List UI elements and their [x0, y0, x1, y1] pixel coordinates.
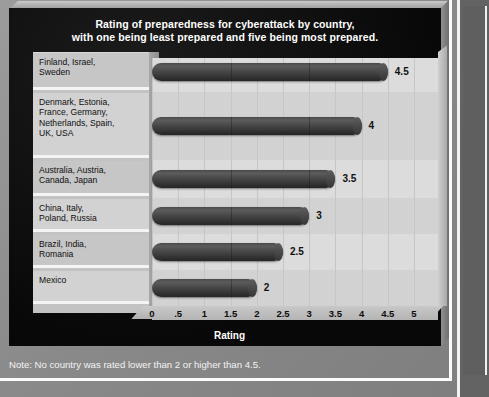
category-label-column: Finland, Israel,SwedenDenmark, Estonia,F…: [33, 52, 149, 313]
gridline: [335, 58, 336, 306]
x-tick-label: 4.5: [381, 308, 394, 319]
category-label-cell: Brazil, India,Romania: [33, 235, 149, 268]
x-tick-label: 2.5: [276, 308, 289, 319]
category-label-cell: China, Italy,Poland, Russia: [33, 199, 149, 232]
category-label-cell: Mexico: [33, 271, 149, 304]
x-tick-label: 2: [254, 308, 259, 319]
gridline: [388, 58, 389, 306]
bar: [152, 63, 388, 81]
bar-end-cap: [326, 170, 335, 188]
bar-value-label: 3: [316, 207, 322, 225]
category-label-cell: Australia, Austria,Canada, Japan: [33, 161, 149, 196]
x-tick-label: 3: [307, 308, 312, 319]
category-label-line: Denmark, Estonia,: [39, 97, 144, 107]
category-label-line: France, Germany,: [39, 107, 144, 117]
bar-segment-line: [231, 63, 232, 81]
category-label-line: Mexico: [39, 275, 144, 285]
bar-end-cap: [379, 63, 388, 81]
right-side-panel: [457, 0, 489, 397]
bar: [152, 170, 335, 188]
bar-value-label: 2: [264, 279, 270, 297]
bar-value-label: 2.5: [290, 243, 304, 261]
x-axis-title: Rating: [9, 330, 450, 341]
bar-value-label: 4: [369, 117, 375, 135]
bar-segment-line: [231, 279, 232, 297]
bar-end-cap: [248, 279, 257, 297]
chart-title: Rating of preparedness for cyberattack b…: [25, 18, 425, 44]
bar: [152, 207, 309, 225]
x-axis: 0.511.522.533.544.55: [33, 308, 433, 324]
bar-segment-line: [309, 63, 310, 81]
x-tick-label: .5: [174, 308, 182, 319]
category-label-line: Australia, Austria,: [39, 165, 144, 175]
category-label-line: Finland, Israel,: [39, 57, 144, 67]
chart-scene: Rating of preparedness for cyberattack b…: [0, 0, 489, 397]
chart-title-line-1: Rating of preparedness for cyberattack b…: [95, 18, 354, 30]
bar-segment-line: [309, 117, 310, 135]
x-tick-label: 0: [149, 308, 154, 319]
category-label-line: China, Italy,: [39, 203, 144, 213]
x-tick-label: 1.5: [224, 308, 237, 319]
gridline: [362, 58, 363, 306]
chart-panel: Rating of preparedness for cyberattack b…: [9, 8, 441, 346]
bar-segment-line: [231, 243, 232, 261]
category-label-line: Brazil, India,: [39, 239, 144, 249]
plot-assembly: Finland, Israel,SwedenDenmark, Estonia,F…: [33, 52, 433, 312]
bar-segment-line: [231, 117, 232, 135]
plot-right-wall: [438, 58, 447, 306]
category-label-line: Romania: [39, 249, 144, 259]
chart-note: Note: No country was rated lower than 2 …: [0, 352, 449, 378]
bar: [152, 117, 362, 135]
chart-title-line-2: with one being least prepared and five b…: [25, 31, 425, 44]
x-tick-label: 5: [411, 308, 416, 319]
bar-end-cap: [353, 117, 362, 135]
x-tick-label: 4: [359, 308, 364, 319]
category-label-line: Sweden: [39, 67, 144, 77]
category-label-cell: Finland, Israel,Sweden: [33, 53, 149, 90]
category-label-line: Canada, Japan: [39, 175, 144, 185]
x-tick-label: 1: [202, 308, 207, 319]
x-tick-label: 3.5: [329, 308, 342, 319]
bar-segment-line: [231, 170, 232, 188]
category-label-line: Poland, Russia: [39, 213, 144, 223]
category-label-cell: Denmark, Estonia,France, Germany,Netherl…: [33, 93, 149, 158]
bar-end-cap: [274, 243, 283, 261]
category-label-line: Netherlands, Spain,: [39, 118, 144, 128]
bar-value-label: 3.5: [342, 170, 356, 188]
bar-value-label: 4.5: [395, 63, 409, 81]
gridline: [414, 58, 415, 306]
bar: [152, 279, 257, 297]
category-label-line: UK, USA: [39, 128, 144, 138]
bar: [152, 243, 283, 261]
right-side-panel-inner: [463, 6, 487, 375]
bar-segment-line: [309, 170, 310, 188]
plot-area: [152, 58, 438, 306]
bar-segment-line: [231, 207, 232, 225]
